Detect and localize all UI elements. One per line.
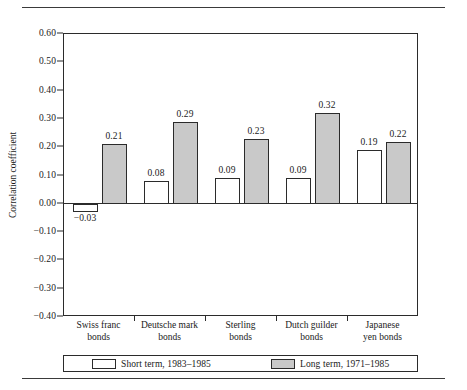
- x-axis-category-line: Swiss franc: [76, 320, 120, 332]
- bar-long-term: [173, 122, 198, 204]
- y-axis-tick-label: 0.10: [39, 170, 56, 180]
- bar-long-term: [315, 113, 340, 204]
- x-axis-category-line: bonds: [285, 332, 338, 344]
- bar-long-term: [244, 139, 269, 204]
- y-axis-tick-label: −0.40: [34, 311, 56, 321]
- legend-item-short-term: Short term, 1983–1985: [92, 359, 211, 369]
- bar-value-label: 0.32: [318, 100, 335, 110]
- bar-short-term: [73, 204, 98, 212]
- bottom-divider-rule: [22, 378, 445, 379]
- bar-value-label: 0.21: [105, 131, 122, 141]
- x-axis-category-line: yen bonds: [363, 332, 402, 344]
- legend-swatch-short-term-icon: [92, 359, 116, 369]
- x-axis-category-label: Japaneseyen bonds: [363, 320, 402, 343]
- y-axis-tick-label: 0.50: [39, 56, 56, 66]
- x-axis-category-line: bonds: [225, 332, 255, 344]
- y-axis-tick-label: 0.60: [39, 28, 56, 38]
- y-axis-tick-label: 0.20: [39, 141, 56, 151]
- y-axis: 0.600.500.400.300.200.100.00−0.10−0.20−0…: [0, 33, 63, 316]
- x-axis-category-line: Dutch guilder: [285, 320, 338, 332]
- bar-value-label: 0.23: [247, 126, 264, 136]
- x-axis-category-line: Japanese: [363, 320, 402, 332]
- legend-swatch-long-term-icon: [271, 359, 295, 369]
- legend-label-short-term: Short term, 1983–1985: [121, 359, 211, 369]
- bar-value-label: 0.09: [218, 165, 235, 175]
- top-divider-rule: [22, 7, 445, 8]
- legend-item-long-term: Long term, 1971–1985: [271, 359, 389, 369]
- y-axis-tick-label: 0.30: [39, 113, 56, 123]
- y-axis-tick-label: 0.00: [39, 198, 56, 208]
- bar-short-term: [215, 178, 240, 203]
- bar-value-label: 0.08: [147, 168, 164, 178]
- y-axis-tick-label: −0.30: [34, 283, 56, 293]
- bar-long-term: [102, 144, 127, 203]
- bar-value-label: −0.03: [74, 213, 96, 223]
- y-axis-tick-label: 0.40: [39, 85, 56, 95]
- y-axis-tick-label: −0.10: [34, 226, 56, 236]
- bar-value-label: 0.22: [389, 129, 406, 139]
- x-axis-category-line: bonds: [141, 332, 198, 344]
- bar-value-label: 0.29: [176, 109, 193, 119]
- bar-value-label: 0.19: [360, 137, 377, 147]
- bar-value-label: 0.09: [289, 165, 306, 175]
- bar-short-term: [144, 181, 169, 204]
- x-axis-category-line: bonds: [76, 332, 120, 344]
- x-axis-category-line: Deutsche mark: [141, 320, 198, 332]
- x-axis-category-label: Dutch guilderbonds: [285, 320, 338, 343]
- y-axis-tick-label: −0.20: [34, 254, 56, 264]
- x-axis-category-label: Swiss francbonds: [76, 320, 120, 343]
- plot-area: −0.030.210.080.290.090.230.090.320.190.2…: [63, 33, 418, 316]
- x-axis-category-labels: Swiss francbondsDeutsche markbondsSterli…: [63, 320, 418, 350]
- bar-long-term: [386, 142, 411, 204]
- bar-short-term: [286, 178, 311, 203]
- bar-short-term: [357, 150, 382, 204]
- x-axis-category-line: Sterling: [225, 320, 255, 332]
- legend-label-long-term: Long term, 1971–1985: [300, 359, 389, 369]
- legend: Short term, 1983–1985 Long term, 1971–19…: [63, 355, 418, 372]
- x-axis-category-label: Sterlingbonds: [225, 320, 255, 343]
- x-axis-category-label: Deutsche markbonds: [141, 320, 198, 343]
